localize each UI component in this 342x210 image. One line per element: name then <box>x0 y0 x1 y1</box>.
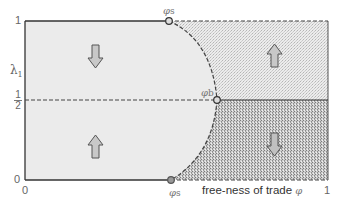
y-axis-subscript: 1 <box>18 70 23 79</box>
label-phi-s-top: φs <box>163 5 175 16</box>
y-tick-0: 0 <box>14 173 20 185</box>
y-tick-half: 1 2 <box>13 90 23 111</box>
x-axis-label-text: free-ness of trade <box>202 184 292 196</box>
diagram-canvas <box>0 0 342 210</box>
x-axis-label: free-ness of trade φ <box>202 184 302 196</box>
point-phi-s-top <box>166 18 173 25</box>
point-phi-s-bottom <box>168 177 175 184</box>
x-axis-symbol: φ <box>295 185 302 196</box>
phase-diagram: 1 0 1 2 λ1 0 1 free-ness of trade φ φs φ… <box>0 0 342 210</box>
half-denominator: 2 <box>15 100 21 111</box>
label-phi-b: φb <box>201 87 214 98</box>
label-phi-s-bottom: φs <box>169 187 181 198</box>
half-numerator: 1 <box>15 89 21 100</box>
y-axis-label: λ1 <box>10 63 23 79</box>
y-axis-symbol: λ <box>10 63 18 77</box>
x-tick-0: 0 <box>22 184 28 196</box>
x-tick-1: 1 <box>324 184 330 196</box>
point-phi-b <box>214 97 221 104</box>
y-tick-1: 1 <box>15 14 21 26</box>
